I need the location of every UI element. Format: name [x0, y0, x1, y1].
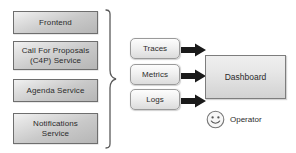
service-box-label: NotificationsService: [30, 119, 81, 139]
signal-box-traces[interactable]: Traces: [130, 38, 180, 59]
operator-group: Operator: [206, 110, 262, 129]
service-box-frontend[interactable]: Frontend: [13, 11, 98, 34]
diagram-canvas: Frontend Call For Proposals(C4P) Service…: [0, 0, 296, 153]
smiley-face-icon: [206, 110, 225, 129]
arrow-traces-to-dashboard-icon: [181, 43, 207, 57]
service-box-label: Call For Proposals(C4P) Service: [19, 46, 93, 66]
arrow-metrics-to-dashboard-icon: [181, 69, 207, 83]
arrow-logs-to-dashboard-icon: [181, 94, 207, 108]
signal-box-logs[interactable]: Logs: [130, 89, 180, 110]
signal-box-label: Traces: [143, 44, 167, 54]
signal-box-label: Metrics: [142, 70, 168, 80]
dashboard-label: Dashboard: [225, 72, 267, 82]
service-box-label: Frontend: [36, 18, 75, 28]
operator-label: Operator: [230, 115, 262, 124]
signal-box-label: Logs: [146, 95, 163, 105]
service-box-c4p[interactable]: Call For Proposals(C4P) Service: [13, 41, 98, 70]
service-box-agenda[interactable]: Agenda Service: [13, 79, 98, 102]
service-box-notifications[interactable]: NotificationsService: [13, 113, 98, 144]
service-box-label: Agenda Service: [24, 86, 88, 96]
grouping-brace-icon: [103, 8, 119, 150]
dashboard-box[interactable]: Dashboard: [205, 55, 286, 99]
signal-box-metrics[interactable]: Metrics: [130, 64, 180, 85]
